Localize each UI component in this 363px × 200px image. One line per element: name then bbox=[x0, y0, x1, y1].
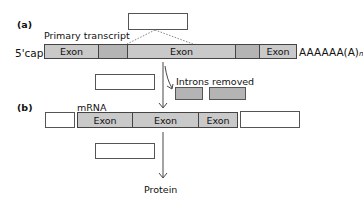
arrow-introns-removed bbox=[165, 66, 172, 88]
poly-a-subscript: n bbox=[359, 50, 363, 58]
dotted-line-left bbox=[127, 30, 155, 44]
dotted-line-right bbox=[155, 30, 193, 44]
